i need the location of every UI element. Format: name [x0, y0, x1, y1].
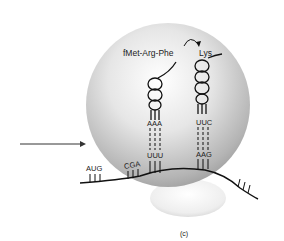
codon-left-label: UUU [147, 151, 163, 160]
peptide-label: fMet-Arg-Phe [123, 48, 174, 58]
ribosome-diagram: fMet-Arg-Phe Lys AAA UUU UUC AAG AUG CGA… [0, 0, 284, 241]
panel-label: (c) [180, 230, 188, 238]
anticodon-right-label: UUC [196, 118, 213, 127]
incoming-amino-acid-label: Lys [199, 48, 212, 58]
incoming-arrowhead [80, 141, 86, 147]
mrna-aug-label: AUG [86, 164, 102, 173]
anticodon-left-label: AAA [147, 119, 162, 128]
codon-right-label: AAG [196, 150, 212, 159]
